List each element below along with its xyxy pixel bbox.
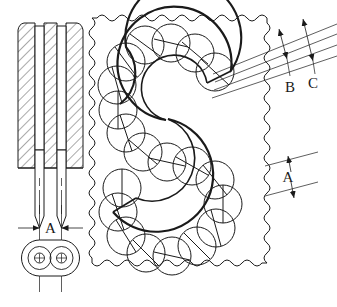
dim-c-label: C [308, 75, 318, 91]
dim-a-bottom-label: A [45, 220, 56, 236]
technical-drawing-canvas: A [0, 0, 337, 307]
dim-b-label: B [285, 79, 295, 95]
bore-channel-left [35, 26, 44, 150]
section-band-centre [44, 23, 57, 168]
obround-outline [22, 240, 80, 276]
obround-footprint-detail [22, 240, 80, 276]
s-pattern-panel-view [69, 0, 270, 275]
section-band-left [18, 23, 35, 168]
dim-a-right-label: A [283, 169, 294, 185]
technical-drawing-svg: A [0, 0, 337, 307]
bore-channel-right [57, 26, 66, 150]
